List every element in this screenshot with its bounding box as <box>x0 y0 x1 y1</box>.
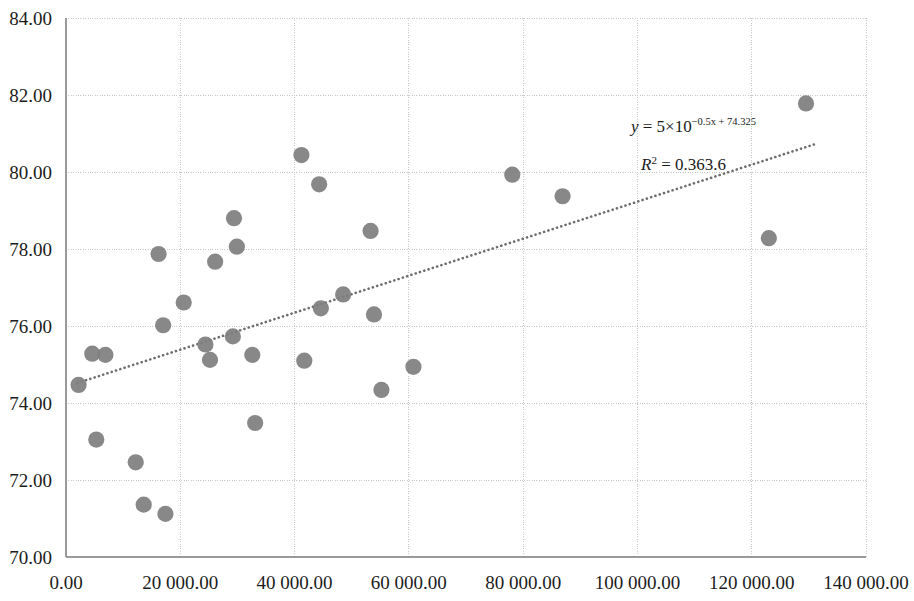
data-point <box>296 353 312 369</box>
x-axis-tick-labels: 0.0020 000.0040 000.0060 000.0080 000.00… <box>49 572 908 593</box>
data-point <box>226 210 242 226</box>
y-tick-label: 72.00 <box>9 470 52 491</box>
data-point <box>88 431 104 447</box>
x-tick-label: 100 000.00 <box>595 572 681 593</box>
x-tick-label: 0.00 <box>49 572 82 593</box>
y-axis-tick-labels: 70.0072.0074.0076.0078.0080.0082.0084.00 <box>9 8 52 568</box>
data-point <box>373 382 389 398</box>
data-point <box>504 167 520 183</box>
x-tick-label: 80 000.00 <box>485 572 561 593</box>
y-tick-label: 76.00 <box>9 316 52 337</box>
data-point <box>247 415 263 431</box>
data-point <box>229 239 245 255</box>
x-tick-label: 40 000.00 <box>257 572 333 593</box>
data-point <box>362 223 378 239</box>
data-point <box>225 328 241 344</box>
y-tick-label: 70.00 <box>9 547 52 568</box>
x-tick-label: 60 000.00 <box>371 572 447 593</box>
data-point <box>155 317 171 333</box>
data-point <box>313 300 329 316</box>
data-point <box>335 286 351 302</box>
data-point <box>798 95 814 111</box>
scatter-chart: 70.0072.0074.0076.0078.0080.0082.0084.00… <box>0 0 914 601</box>
data-point <box>405 359 421 375</box>
x-tick-label: 20 000.00 <box>142 572 218 593</box>
plot-area-background <box>66 18 866 557</box>
data-point <box>197 336 213 352</box>
data-point <box>293 147 309 163</box>
data-point <box>70 377 86 393</box>
data-point <box>150 246 166 262</box>
x-tick-label: 120 000.00 <box>709 572 795 593</box>
data-point <box>136 497 152 513</box>
data-point <box>157 506 173 522</box>
y-tick-label: 80.00 <box>9 162 52 183</box>
data-point <box>311 176 327 192</box>
y-tick-label: 82.00 <box>9 85 52 106</box>
y-tick-label: 78.00 <box>9 239 52 260</box>
chart-canvas: 70.0072.0074.0076.0078.0080.0082.0084.00… <box>0 0 914 601</box>
data-point <box>207 254 223 270</box>
data-point <box>128 454 144 470</box>
data-point <box>366 306 382 322</box>
x-tick-label: 140 000.00 <box>823 572 909 593</box>
data-point <box>176 294 192 310</box>
y-tick-label: 74.00 <box>9 393 52 414</box>
data-point <box>97 347 113 363</box>
data-point <box>761 230 777 246</box>
data-point <box>244 347 260 363</box>
y-tick-label: 84.00 <box>9 8 52 29</box>
data-point <box>554 188 570 204</box>
data-point <box>202 352 218 368</box>
